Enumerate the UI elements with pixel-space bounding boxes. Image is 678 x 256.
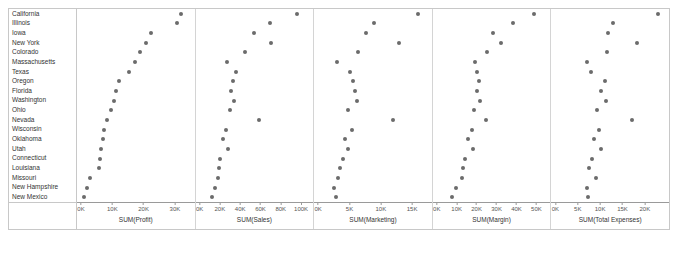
data-point[interactable]: [511, 21, 515, 25]
data-point[interactable]: [210, 195, 214, 199]
data-point[interactable]: [98, 157, 102, 161]
data-point[interactable]: [231, 79, 235, 83]
data-point[interactable]: [597, 128, 601, 132]
data-point[interactable]: [343, 137, 347, 141]
data-point[interactable]: [335, 60, 339, 64]
data-point[interactable]: [416, 12, 420, 16]
data-point[interactable]: [605, 50, 609, 54]
data-point[interactable]: [478, 99, 482, 103]
data-point[interactable]: [105, 118, 109, 122]
data-point[interactable]: [461, 166, 465, 170]
data-point[interactable]: [656, 12, 660, 16]
data-point[interactable]: [470, 128, 474, 132]
data-point[interactable]: [228, 108, 232, 112]
data-point[interactable]: [460, 176, 464, 180]
data-point[interactable]: [353, 89, 357, 93]
data-point[interactable]: [127, 70, 131, 74]
data-point[interactable]: [594, 176, 598, 180]
data-point[interactable]: [269, 41, 273, 45]
data-point[interactable]: [229, 89, 233, 93]
data-point[interactable]: [101, 137, 105, 141]
data-point[interactable]: [102, 128, 106, 132]
data-point[interactable]: [97, 166, 101, 170]
data-point[interactable]: [334, 195, 338, 199]
data-point[interactable]: [475, 89, 479, 93]
data-point[interactable]: [350, 128, 354, 132]
data-point[interactable]: [217, 166, 221, 170]
data-point[interactable]: [338, 166, 342, 170]
data-point[interactable]: [133, 60, 137, 64]
data-point[interactable]: [117, 79, 121, 83]
data-point[interactable]: [595, 108, 599, 112]
data-point[interactable]: [466, 137, 470, 141]
data-point[interactable]: [295, 12, 299, 16]
data-point[interactable]: [179, 12, 183, 16]
data-point[interactable]: [484, 118, 488, 122]
data-point[interactable]: [603, 79, 607, 83]
data-point[interactable]: [351, 79, 355, 83]
data-point[interactable]: [144, 41, 148, 45]
data-point[interactable]: [252, 31, 256, 35]
data-point[interactable]: [332, 186, 336, 190]
data-point[interactable]: [82, 195, 86, 199]
data-point[interactable]: [226, 147, 230, 151]
data-point[interactable]: [99, 147, 103, 151]
data-point[interactable]: [611, 21, 615, 25]
data-point[interactable]: [491, 31, 495, 35]
data-point[interactable]: [397, 41, 401, 45]
data-point[interactable]: [175, 21, 179, 25]
data-point[interactable]: [268, 21, 272, 25]
data-point[interactable]: [356, 50, 360, 54]
data-point[interactable]: [471, 147, 475, 151]
data-point[interactable]: [604, 99, 608, 103]
data-point[interactable]: [224, 128, 228, 132]
data-point[interactable]: [346, 147, 350, 151]
data-point[interactable]: [341, 157, 345, 161]
data-point[interactable]: [109, 108, 113, 112]
data-point[interactable]: [88, 176, 92, 180]
data-point[interactable]: [138, 50, 142, 54]
data-point[interactable]: [485, 50, 489, 54]
data-point[interactable]: [499, 41, 503, 45]
data-point[interactable]: [454, 186, 458, 190]
data-point[interactable]: [599, 147, 603, 151]
data-point[interactable]: [475, 70, 479, 74]
data-point[interactable]: [216, 176, 220, 180]
data-point[interactable]: [630, 118, 634, 122]
data-point[interactable]: [599, 89, 603, 93]
data-point[interactable]: [336, 176, 340, 180]
data-point[interactable]: [590, 157, 594, 161]
data-point[interactable]: [585, 60, 589, 64]
data-point[interactable]: [355, 99, 359, 103]
data-point[interactable]: [218, 157, 222, 161]
data-point[interactable]: [391, 118, 395, 122]
data-point[interactable]: [149, 31, 153, 35]
data-point[interactable]: [592, 137, 596, 141]
data-point[interactable]: [372, 21, 376, 25]
data-point[interactable]: [635, 41, 639, 45]
data-point[interactable]: [606, 31, 610, 35]
data-point[interactable]: [213, 186, 217, 190]
data-point[interactable]: [112, 99, 116, 103]
data-point[interactable]: [346, 108, 350, 112]
data-point[interactable]: [472, 108, 476, 112]
data-point[interactable]: [348, 70, 352, 74]
data-point[interactable]: [587, 166, 591, 170]
data-point[interactable]: [585, 186, 589, 190]
data-point[interactable]: [586, 195, 590, 199]
data-point[interactable]: [243, 50, 247, 54]
data-point[interactable]: [589, 70, 593, 74]
data-point[interactable]: [232, 99, 236, 103]
data-point[interactable]: [463, 157, 467, 161]
data-point[interactable]: [257, 118, 261, 122]
data-point[interactable]: [450, 195, 454, 199]
data-point[interactable]: [477, 79, 481, 83]
data-point[interactable]: [221, 137, 225, 141]
data-point[interactable]: [234, 70, 238, 74]
data-point[interactable]: [225, 60, 229, 64]
data-point[interactable]: [473, 60, 477, 64]
data-point[interactable]: [532, 12, 536, 16]
data-point[interactable]: [85, 186, 89, 190]
data-point[interactable]: [114, 89, 118, 93]
data-point[interactable]: [364, 31, 368, 35]
